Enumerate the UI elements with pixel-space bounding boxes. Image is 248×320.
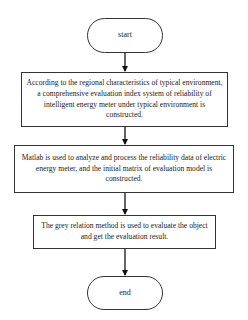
start-label: start bbox=[118, 30, 132, 41]
step-2-text: Matlab is used to analyze and process th… bbox=[19, 153, 229, 185]
start-terminator: start bbox=[87, 18, 163, 53]
step-1-text: According to the regional characteristic… bbox=[26, 78, 223, 120]
end-terminator: end bbox=[87, 276, 163, 310]
process-step-3: The grey relation method is used to eval… bbox=[33, 215, 216, 249]
process-step-1: According to the regional characteristic… bbox=[21, 72, 228, 127]
step-3-text: The grey relation method is used to eval… bbox=[38, 221, 211, 242]
process-step-2: Matlab is used to analyze and process th… bbox=[14, 145, 234, 193]
end-label: end bbox=[119, 288, 131, 299]
